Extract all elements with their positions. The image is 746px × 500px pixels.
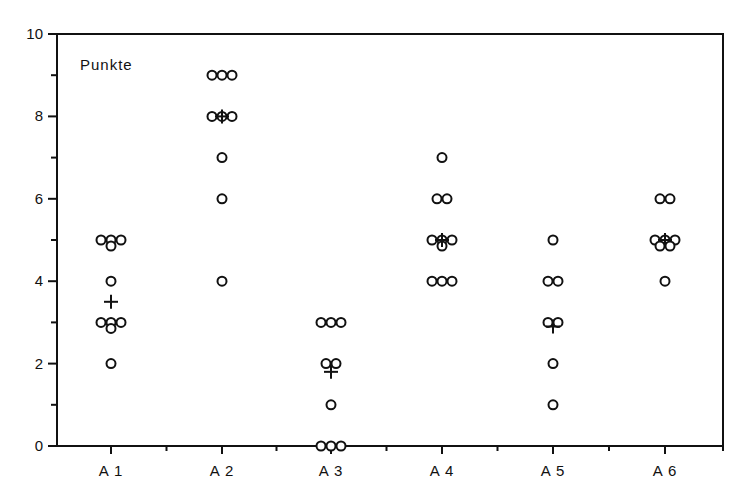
data-point-circle xyxy=(666,242,675,251)
x-category-label: A 1 xyxy=(99,462,124,479)
data-point-circle xyxy=(337,442,346,451)
plot-title: Punkte xyxy=(80,56,133,73)
x-category-label: A 4 xyxy=(430,462,455,479)
data-point-circle xyxy=(448,277,457,286)
data-point-circle xyxy=(107,324,116,333)
plot-frame xyxy=(57,34,723,446)
data-point-circle xyxy=(327,400,336,409)
data-point-circle xyxy=(322,359,331,368)
data-point-circle xyxy=(656,194,665,203)
data-point-circle xyxy=(117,236,126,245)
data-point-circle xyxy=(218,153,227,162)
data-point-circle xyxy=(656,242,665,251)
y-tick-label: 6 xyxy=(35,190,43,207)
data-point-circle xyxy=(549,236,558,245)
data-point-circle xyxy=(218,71,227,80)
y-tick-label: 0 xyxy=(35,437,43,454)
data-point-circle xyxy=(428,277,437,286)
data-point-circle xyxy=(438,277,447,286)
x-category-label: A 6 xyxy=(653,462,678,479)
data-point-circle xyxy=(332,359,341,368)
data-point-circle xyxy=(327,318,336,327)
y-tick-label: 2 xyxy=(35,355,43,372)
data-point-circle xyxy=(317,442,326,451)
data-point-circle xyxy=(661,277,670,286)
x-category-label: A 5 xyxy=(541,462,566,479)
data-point-circle xyxy=(554,277,563,286)
x-category-label: A 2 xyxy=(210,462,235,479)
data-point-circle xyxy=(117,318,126,327)
data-point-circle xyxy=(228,71,237,80)
y-tick-label: 4 xyxy=(35,272,43,289)
plot-axes: 0246810A 1A 2A 3A 4A 5A 6 xyxy=(26,25,723,479)
data-point-circle xyxy=(97,236,106,245)
data-point-circle xyxy=(337,318,346,327)
data-point-circle xyxy=(218,194,227,203)
data-point-circle xyxy=(549,400,558,409)
data-point-circle xyxy=(438,153,447,162)
data-point-circle xyxy=(544,277,553,286)
dot-plot-chart: 0246810A 1A 2A 3A 4A 5A 6 Punkte xyxy=(0,0,746,500)
data-point-circle xyxy=(443,194,452,203)
data-point-circle xyxy=(107,242,116,251)
data-point-circle xyxy=(107,277,116,286)
data-point-circle xyxy=(327,442,336,451)
data-point-circle xyxy=(218,277,227,286)
data-point-circle xyxy=(107,359,116,368)
data-point-circle xyxy=(666,194,675,203)
data-point-circle xyxy=(208,71,217,80)
y-tick-label: 10 xyxy=(26,25,43,42)
data-point-circle xyxy=(317,318,326,327)
data-point-circle xyxy=(549,359,558,368)
x-category-label: A 3 xyxy=(319,462,344,479)
y-tick-label: 8 xyxy=(35,107,43,124)
data-point-circle xyxy=(433,194,442,203)
data-points xyxy=(97,71,680,451)
data-point-circle xyxy=(97,318,106,327)
